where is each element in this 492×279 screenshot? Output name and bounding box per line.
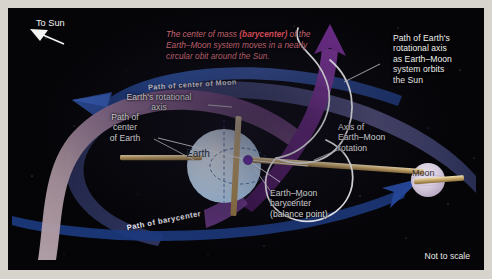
earth-moon-rotation-rod-right [252, 157, 424, 175]
figure-canvas: To Sun The center of mass (barycenter) o… [0, 0, 492, 279]
diagram-frame: To Sun The center of mass (barycenter) o… [8, 8, 484, 270]
barycenter-dot [243, 155, 252, 164]
to-sun-arrow-icon [30, 29, 64, 44]
moon-body-label: Moon [412, 168, 435, 178]
callout-text-before: The center of mass [166, 29, 239, 39]
to-sun-label: To Sun [36, 18, 65, 28]
not-to-scale-label: Not to scale [425, 251, 470, 261]
callout-emphasis: (barycenter) [239, 29, 287, 39]
barycenter-callout: The center of mass (barycenter) of the E… [166, 29, 314, 63]
earth-body-label: Earth [186, 148, 210, 159]
